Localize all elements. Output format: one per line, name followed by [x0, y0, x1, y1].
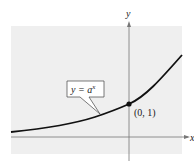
intercept-point — [126, 101, 131, 106]
curve-label-base: y = a — [70, 84, 92, 95]
point-label: (0, 1) — [134, 107, 156, 119]
y-axis-arrow-icon — [127, 21, 131, 27]
y-axis-label: y — [125, 8, 131, 19]
exponential-graph: x y (0, 1) y = ax — [0, 0, 194, 167]
x-axis-label: x — [189, 132, 194, 143]
